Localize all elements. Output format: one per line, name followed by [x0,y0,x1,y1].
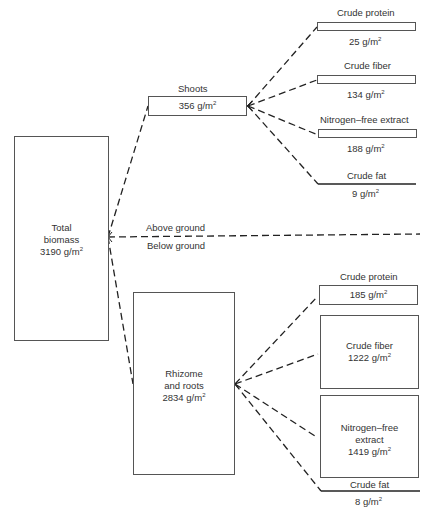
shoot-protein-value: 25 g/m2 [349,36,381,48]
shoot-fat-label: Crude fat [347,170,386,182]
above-ground-label: Above ground [146,222,205,234]
total-biomass-box: Total biomass 3190 g/m2 [14,136,109,341]
shoots-value: 356 g/m2 [149,100,246,112]
total-value: 3190 g/m2 [15,246,108,258]
shoot-protein-bar [317,22,416,31]
shoot-protein-label: Crude protein [337,7,395,19]
shoot-fiber-value: 134 g/m2 [347,89,385,101]
total-label-1: Total [15,222,108,234]
root-fiber-box: Crude fiber 1222 g/m2 [320,315,419,389]
shoot-fat-value: 9 g/m2 [352,188,379,200]
roots-box: Rhizome and roots 2834 g/m2 [133,292,235,475]
root-protein-label: Crude protein [340,271,398,283]
shoot-fiber-bar [317,75,416,84]
below-ground-label: Below ground [147,240,205,252]
roots-label-1: Rhizome [134,368,234,380]
root-nfe-box: Nitrogen–free extract 1419 g/m2 [320,395,419,478]
roots-label-2: and roots [134,380,234,392]
root-fat-value: 8 g/m2 [355,496,382,508]
shoot-fiber-label: Crude fiber [344,60,391,72]
root-protein-box: 185 g/m2 [319,285,418,305]
shoot-nfe-value: 188 g/m2 [347,143,385,155]
shoot-nfe-label: Nitrogen–free extract [320,114,409,126]
shoots-box: 356 g/m2 [148,96,247,116]
roots-value: 2834 g/m2 [134,392,234,404]
total-label-2: biomass [15,234,108,246]
root-fat-label: Crude fat [350,479,389,491]
shoots-title: Shoots [178,83,208,95]
shoot-nfe-bar [318,129,417,138]
